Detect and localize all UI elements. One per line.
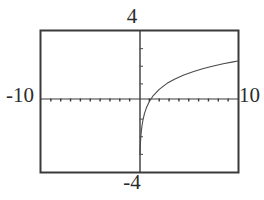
graph-screen: 4 -4 -10 10: [0, 0, 264, 200]
plot-area: [0, 0, 264, 200]
curve-log: [140, 61, 238, 154]
